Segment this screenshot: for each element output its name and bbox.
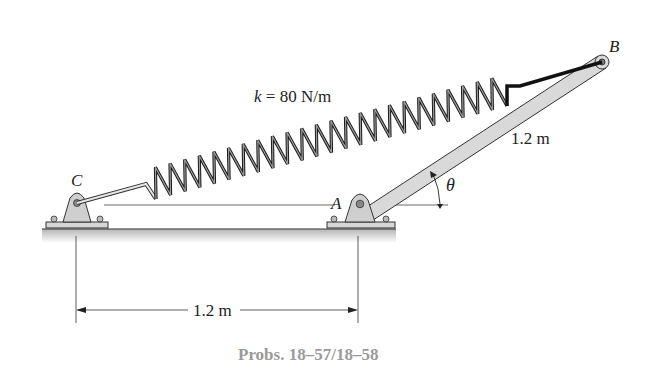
- point-b-label: B: [609, 38, 619, 55]
- spring-constant-symbol: k: [254, 87, 262, 106]
- point-a-label: A: [331, 195, 341, 212]
- spring-constant-value: = 80 N/m: [266, 87, 331, 106]
- mechanism-diagram: [0, 0, 660, 391]
- angle-theta-label: θ: [446, 176, 455, 194]
- base-distance-label: 1.2 m: [193, 302, 232, 319]
- point-c-label: C: [71, 172, 82, 189]
- ground: [42, 229, 396, 243]
- spring-constant-label: k = 80 N/m: [254, 88, 331, 105]
- rod-ab: [356, 55, 609, 226]
- spring-link-c: [77, 184, 156, 203]
- figure-caption: Probs. 18–57/18–58: [238, 345, 378, 365]
- rod-length-label: 1.2 m: [511, 130, 550, 147]
